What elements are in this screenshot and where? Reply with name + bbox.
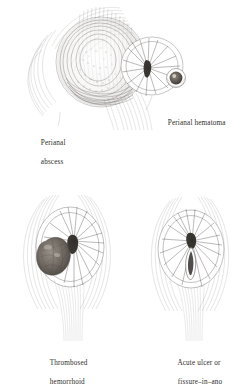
label-thrombosed-hemorrhoid-line1: Thrombosed bbox=[50, 359, 88, 367]
label-acute-ulcer-fissure-line1: Acute ulcer or bbox=[177, 359, 220, 367]
label-thrombosed-hemorrhoid: Thrombosed hemorrhoid bbox=[42, 350, 88, 388]
hemorrhoid-artwork bbox=[24, 195, 111, 341]
label-perianal-abscess-line1: Perianal bbox=[41, 139, 66, 147]
figure-acute-ulcer-fissure bbox=[136, 185, 246, 345]
label-thrombosed-hemorrhoid-line2: hemorrhoid bbox=[50, 378, 85, 386]
label-perianal-hematoma: Perianal hematoma bbox=[160, 110, 226, 138]
fissure-artwork bbox=[151, 197, 228, 341]
label-perianal-hematoma-line1: Perianal hematoma bbox=[168, 119, 226, 127]
label-perianal-abscess: Perianal abscess bbox=[33, 130, 66, 177]
label-acute-ulcer-fissure-line2: fissure–in–ano bbox=[178, 378, 222, 386]
label-perianal-abscess-line2: abscess bbox=[41, 158, 64, 166]
figure-thrombosed-hemorrhoid bbox=[14, 185, 132, 345]
label-acute-ulcer-fissure: Acute ulcer or fissure–in–ano bbox=[170, 350, 222, 388]
hematoma-nodule bbox=[167, 69, 186, 88]
